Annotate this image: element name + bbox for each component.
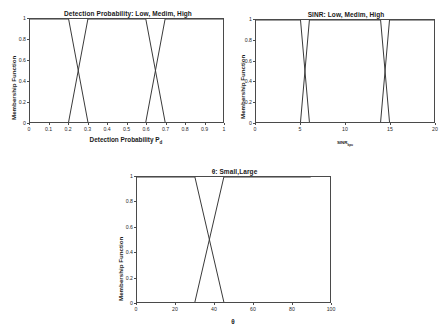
y-tick-mark — [134, 278, 136, 279]
membership-curves-detection-probability — [30, 19, 223, 122]
membership-curves-sinr — [256, 20, 434, 122]
y-tick-label: 1 — [114, 173, 133, 179]
y-tick-label: 0 — [233, 120, 252, 126]
y-tick-mark — [253, 40, 255, 41]
x-tick-mark — [345, 123, 346, 125]
y-tick-mark — [27, 39, 29, 40]
y-tick-mark — [134, 201, 136, 202]
y-axis-label-theta: Membership Function — [117, 237, 124, 301]
x-tick-mark — [205, 123, 206, 125]
chart-title-theta: θ: Small,Large — [137, 168, 332, 175]
y-tick-label: 0 — [7, 120, 26, 126]
x-tick-mark — [214, 303, 215, 305]
y-tick-mark — [253, 19, 255, 20]
y-tick-label: 0.8 — [7, 36, 26, 42]
y-tick-mark — [27, 81, 29, 82]
x-tick-label: 60 — [250, 306, 256, 312]
y-tick-mark — [27, 102, 29, 103]
y-tick-mark — [253, 61, 255, 62]
x-tick-label: 80 — [289, 306, 295, 312]
x-tick-label: 0.5 — [123, 126, 130, 132]
x-tick-label: 40 — [211, 306, 217, 312]
y-axis-label-detection-probability: Membership Function — [10, 56, 17, 120]
x-tick-label: 0 — [135, 306, 138, 312]
y-tick-mark — [253, 81, 255, 82]
x-tick-label: 0.3 — [84, 126, 91, 132]
chart-title-detection-probability: Detection Probability: Low, Medim, High — [30, 10, 226, 17]
x-tick-mark — [175, 303, 176, 305]
x-tick-label: 0.8 — [181, 126, 188, 132]
plot-area-theta — [136, 176, 331, 303]
x-tick-label: 0.9 — [201, 126, 208, 132]
y-tick-mark — [134, 252, 136, 253]
x-tick-label: 0.6 — [142, 126, 149, 132]
y-tick-label: 1 — [7, 15, 26, 21]
y-tick-mark — [134, 303, 136, 304]
x-tick-mark — [166, 123, 167, 125]
chart-title-sinr: SINR: Low, Medim, High — [256, 11, 436, 18]
membership-curves-theta — [137, 177, 330, 302]
y-tick-mark — [134, 176, 136, 177]
x-tick-mark — [253, 303, 254, 305]
x-tick-label: 5 — [299, 126, 302, 132]
x-tick-mark — [127, 123, 128, 125]
x-tick-mark — [185, 123, 186, 125]
y-tick-mark — [134, 227, 136, 228]
x-tick-label: 10 — [342, 126, 348, 132]
x-tick-mark — [136, 303, 137, 305]
x-tick-mark — [88, 123, 89, 125]
y-tick-label: 0.6 — [114, 224, 133, 230]
y-tick-label: 0.8 — [233, 37, 252, 43]
y-tick-mark — [253, 102, 255, 103]
y-axis-label-sinr: Membership Function — [239, 55, 246, 119]
x-tick-label: 0.4 — [103, 126, 110, 132]
y-tick-mark — [27, 60, 29, 61]
x-tick-label: 15 — [387, 126, 393, 132]
x-tick-label: 0 — [28, 126, 31, 132]
x-tick-mark — [331, 303, 332, 305]
x-tick-label: 0.1 — [45, 126, 52, 132]
x-tick-mark — [107, 123, 108, 125]
chart-panel-detection-probability: Detection Probability: Low, Medim, High … — [0, 0, 232, 165]
y-tick-mark — [253, 123, 255, 124]
chart-panel-sinr: SINR: Low, Medim, High 05101520 00.20.40… — [238, 0, 441, 165]
x-tick-mark — [224, 123, 225, 125]
x-tick-mark — [255, 123, 256, 125]
y-tick-label: 1 — [233, 16, 252, 22]
x-tick-mark — [435, 123, 436, 125]
x-tick-label: 20 — [432, 126, 438, 132]
x-tick-mark — [49, 123, 50, 125]
y-tick-mark — [27, 18, 29, 19]
x-tick-label: 1 — [223, 126, 226, 132]
x-axis-label-detection-probability: Detection Probability Pd — [90, 136, 163, 145]
x-tick-mark — [146, 123, 147, 125]
x-tick-label: 0.7 — [162, 126, 169, 132]
x-tick-mark — [68, 123, 69, 125]
x-tick-label: 100 — [327, 306, 336, 312]
plot-area-detection-probability — [29, 18, 224, 123]
x-tick-label: 20 — [172, 306, 178, 312]
plot-area-sinr — [255, 19, 435, 123]
x-tick-mark — [292, 303, 293, 305]
chart-panel-theta: θ: Small,Large 020406080100 00.20.40.60.… — [110, 168, 355, 336]
x-tick-label: 0.2 — [64, 126, 71, 132]
x-tick-label: 0 — [254, 126, 257, 132]
x-tick-mark — [300, 123, 301, 125]
y-tick-mark — [27, 123, 29, 124]
x-axis-label-theta: θ — [231, 318, 234, 325]
x-axis-label-sinr: SINRkpu — [337, 140, 353, 147]
x-tick-mark — [29, 123, 30, 125]
y-tick-label: 0.8 — [114, 198, 133, 204]
x-tick-mark — [390, 123, 391, 125]
